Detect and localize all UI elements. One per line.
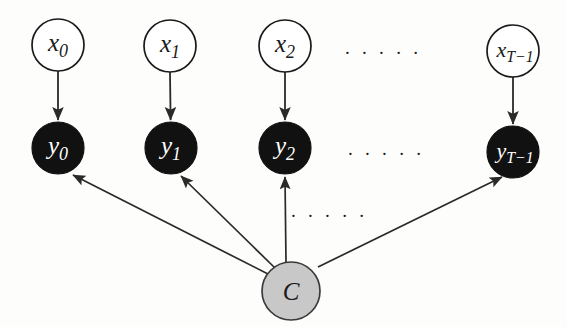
node-x1: [144, 20, 196, 72]
edge-C-y0: [73, 175, 268, 274]
ellipsis-middle: · · · · ·: [347, 144, 425, 163]
node-xT-1: [487, 25, 539, 77]
edge-x1-y1: [170, 72, 171, 120]
edge-group-input-to-output: [58, 71, 513, 124]
node-C: [262, 262, 320, 320]
node-group-outputs: [32, 122, 539, 178]
edge-group-shared-to-output: [73, 175, 502, 274]
node-x2: [259, 20, 311, 72]
node-y0: [32, 122, 84, 174]
node-group-shared: [262, 262, 320, 320]
ellipsis-top: · · · · ·: [344, 43, 422, 62]
ellipsis-lower: · · · · ·: [290, 206, 368, 225]
node-yT-1: [487, 126, 539, 178]
node-x0: [32, 19, 84, 71]
node-y1: [145, 122, 197, 174]
node-y2: [259, 122, 311, 174]
graphical-model-figure: x0 x1 x2 xT−1 y0 y1 y2 yT−1 C · · · · · …: [0, 0, 567, 327]
edge-C-y2: [285, 177, 286, 262]
node-group-inputs: [32, 19, 539, 77]
graph-edges-and-nodes: [0, 0, 567, 327]
